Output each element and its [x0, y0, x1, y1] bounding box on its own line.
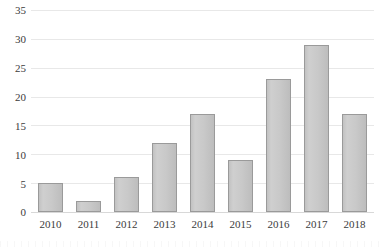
y-axis-tick-label: 35	[4, 5, 26, 16]
x-axis-tick-label-2011: 2011	[69, 218, 109, 230]
bar-2012	[114, 177, 139, 212]
bar-2016	[266, 79, 291, 212]
x-axis-tick-label-2013: 2013	[145, 218, 185, 230]
gridline-0-baseline	[31, 212, 374, 213]
bar-2015	[228, 160, 253, 212]
bar-2014	[190, 114, 215, 212]
bar-2017	[304, 45, 329, 212]
y-axis-tick-label: 0	[4, 207, 26, 218]
bar-chart: 35 30 25 20 15 10 5 0 2010 2011 2012 201…	[0, 0, 379, 247]
bar-2010	[38, 183, 63, 212]
x-axis-tick-label-2010: 2010	[31, 218, 71, 230]
x-axis-tick-label-2012: 2012	[107, 218, 147, 230]
y-axis-tick-label: 5	[4, 179, 26, 190]
y-axis-tick-label: 10	[4, 150, 26, 161]
y-axis-tick-label: 15	[4, 121, 26, 132]
y-axis-tick-label: 25	[4, 63, 26, 74]
bar-2018	[342, 114, 367, 212]
y-axis-tick-label: 30	[4, 34, 26, 45]
bars-layer	[31, 10, 374, 212]
bar-2013	[152, 143, 177, 212]
x-axis-tick-label-2017: 2017	[297, 218, 337, 230]
x-axis-tick-label-2016: 2016	[259, 218, 299, 230]
x-axis-tick-label-2018: 2018	[335, 218, 375, 230]
x-axis-tick-label-2014: 2014	[183, 218, 223, 230]
scan-noise	[0, 241, 379, 247]
y-axis-tick-label: 20	[4, 92, 26, 103]
x-axis-tick-label-2015: 2015	[221, 218, 261, 230]
bar-2011	[76, 201, 101, 213]
